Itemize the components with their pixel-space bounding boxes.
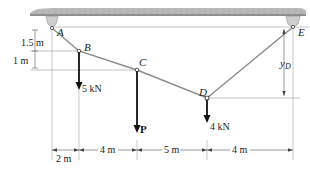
label-c: C [139,56,147,68]
dim-b-c: 1 m [13,55,29,66]
node-a [50,26,53,29]
label-b: B [84,41,91,53]
label-e: E [297,26,305,38]
dim-5m: 5 m [164,144,180,155]
support-e [286,16,300,27]
label-d: D [198,86,207,98]
support-a [46,16,58,27]
dim-a-b: 1.5 m [21,37,44,48]
reference-lines [30,27,310,98]
ceiling [30,8,306,16]
dim-4m-second: 4 m [232,144,248,155]
dim-2m: 2 m [56,153,72,164]
dim-yd-label: yD [279,57,291,71]
dim-4m-first: 4 m [100,144,116,155]
label-a: A [56,26,64,38]
load-d: 4 kN [204,100,230,132]
node-e [291,25,294,28]
load-c: P [134,71,148,135]
load-d-label: 4 kN [210,121,230,132]
load-b-label: 5 kN [82,83,102,94]
load-c-label: P [140,123,147,135]
cable-diagram: A B C D E 5 kN P 4 kN 1.5 m 1 m yD [0,0,310,182]
load-b: 5 kN [76,52,102,94]
dim-vertical-left [32,30,38,68]
